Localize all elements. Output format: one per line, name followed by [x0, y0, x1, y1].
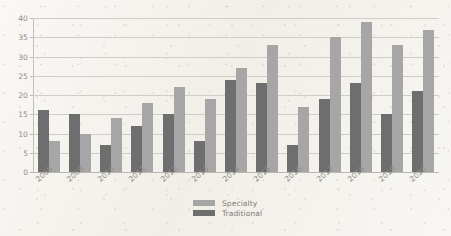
bar-traditional-2020 — [412, 91, 423, 172]
legend-swatch-traditional-icon — [193, 210, 215, 216]
x-axis-label-cell: 2011 — [127, 173, 158, 201]
bar-specialty-2010 — [111, 118, 122, 172]
bar-chart-figure: 0510152025303540 20082009201020112012201… — [0, 0, 451, 236]
x-axis-labels: 2008200920102011201220132014201520162017… — [33, 173, 439, 201]
bar-group — [408, 18, 439, 172]
bar-traditional-2014 — [225, 80, 236, 172]
legend-swatch-specialty-icon — [193, 200, 215, 206]
x-axis-label-cell: 2019 — [377, 173, 408, 201]
bar-traditional-2015 — [256, 83, 267, 172]
x-axis-label-cell: 2010 — [95, 173, 126, 201]
bar-group — [220, 18, 251, 172]
bar-specialty-2017 — [330, 37, 341, 172]
bar-group — [377, 18, 408, 172]
bar-specialty-2011 — [142, 103, 153, 172]
bar-specialty-2018 — [361, 22, 372, 172]
y-axis-tick-label: 0 — [23, 168, 28, 177]
bar-traditional-2012 — [163, 114, 174, 172]
x-axis-label-cell: 2012 — [158, 173, 189, 201]
bar-group-container — [33, 18, 439, 172]
x-axis-label-cell: 2014 — [220, 173, 251, 201]
y-axis-tick-label: 20 — [18, 91, 28, 100]
y-axis-tick-label: 25 — [18, 71, 28, 80]
legend-item-specialty: Specialty — [193, 199, 262, 207]
bar-specialty-2016 — [298, 107, 309, 172]
y-axis-tick-label: 5 — [23, 148, 28, 157]
y-axis-tick-label: 35 — [18, 33, 28, 42]
bar-traditional-2008 — [38, 110, 49, 172]
x-axis-label-cell: 2015 — [252, 173, 283, 201]
bar-traditional-2017 — [319, 99, 330, 172]
x-axis-label-cell: 2017 — [314, 173, 345, 201]
x-axis-label-cell: 2013 — [189, 173, 220, 201]
bar-specialty-2012 — [174, 87, 185, 172]
bar-group — [252, 18, 283, 172]
bar-specialty-2015 — [267, 45, 278, 172]
x-axis-label-cell: 2020 — [408, 173, 439, 201]
bar-group — [127, 18, 158, 172]
x-axis-label-cell: 2018 — [345, 173, 376, 201]
bar-group — [64, 18, 95, 172]
y-axis-tick-label: 30 — [18, 52, 28, 61]
y-axis-tick-label: 15 — [18, 110, 28, 119]
bar-group — [345, 18, 376, 172]
bar-group — [95, 18, 126, 172]
bar-group — [33, 18, 64, 172]
bar-group — [158, 18, 189, 172]
bar-specialty-2020 — [423, 30, 434, 172]
x-axis-label-cell: 2009 — [64, 173, 95, 201]
bar-specialty-2019 — [392, 45, 403, 172]
x-axis-label-cell: 2008 — [33, 173, 64, 201]
plot-area: 0510152025303540 — [33, 18, 439, 172]
legend-label-traditional: Traditional — [222, 209, 262, 218]
bar-group — [314, 18, 345, 172]
bar-specialty-2014 — [236, 68, 247, 172]
chart-legend: Specialty Traditional — [193, 199, 262, 217]
y-axis-tick-label: 40 — [18, 14, 28, 23]
x-axis-label-cell: 2016 — [283, 173, 314, 201]
legend-label-specialty: Specialty — [222, 199, 257, 208]
y-axis-tick-label: 10 — [18, 129, 28, 138]
bar-group — [189, 18, 220, 172]
chart-canvas: 0510152025303540 20082009201020112012201… — [0, 0, 451, 236]
bar-traditional-2018 — [350, 83, 361, 172]
bar-group — [283, 18, 314, 172]
bar-specialty-2013 — [205, 99, 216, 172]
legend-item-traditional: Traditional — [193, 209, 262, 217]
